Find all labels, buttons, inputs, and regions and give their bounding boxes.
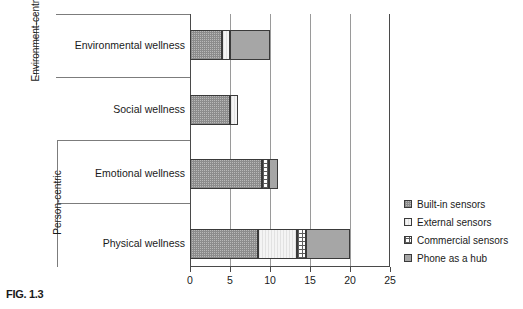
figure-caption: FIG. 1.3: [6, 288, 43, 300]
group-rule-person-centric-mid: [57, 203, 190, 204]
bar-environmental-wellness: [190, 30, 270, 60]
bar-segment-built-in-sensors: [190, 95, 230, 125]
category-label-physical-wellness: Physical wellness: [25, 237, 185, 249]
xtick-label-5: 5: [215, 274, 245, 286]
bar-segment-phone-as-a-hub: [269, 159, 278, 189]
bar-segment-external-sensors: [230, 95, 238, 125]
bar-segment-built-in-sensors: [190, 229, 258, 259]
legend-item-built-in-sensors: Built-in sensors: [404, 196, 523, 212]
category-label-social-wellness: Social wellness: [25, 103, 185, 115]
bar-segment-external-sensors: [258, 229, 297, 259]
xtick-label-10: 10: [255, 274, 285, 286]
legend-label-built-in-sensors: Built-in sensors: [417, 199, 485, 210]
xtick-25: [390, 267, 391, 272]
category-label-emotional-wellness: Emotional wellness: [25, 167, 185, 179]
xtick-label-25: 25: [375, 274, 405, 286]
bar-segment-built-in-sensors: [190, 30, 222, 60]
bar-emotional-wellness: [190, 159, 278, 189]
bar-social-wellness: [190, 95, 238, 125]
xtick-label-15: 15: [295, 274, 325, 286]
category-label-environmental-wellness: Environmental wellness: [25, 39, 185, 51]
bar-segment-phone-as-a-hub: [230, 30, 270, 60]
legend-swatch-commercial-sensors-icon: [404, 236, 412, 244]
legend-label-commercial-sensors: Commercial sensors: [417, 235, 508, 246]
legend-swatch-external-sensors-icon: [404, 218, 412, 226]
bar-segment-built-in-sensors: [190, 159, 262, 189]
group-label-person-centric-text: Person-centric: [52, 170, 63, 234]
legend-item-phone-as-a-hub: Phone as a hub: [404, 250, 523, 266]
bar-segment-commercial-sensors: [297, 229, 306, 259]
bar-segment-phone-as-a-hub: [306, 229, 350, 259]
legend-item-external-sensors: External sensors: [404, 214, 523, 230]
legend-label-phone-as-a-hub: Phone as a hub: [417, 253, 487, 264]
xtick-10: [270, 267, 271, 272]
xtick-label-0: 0: [175, 274, 205, 286]
legend-swatch-phone-as-a-hub-icon: [404, 254, 412, 262]
group-top-rule-environment-centric: [56, 14, 190, 15]
bar-segment-commercial-sensors: [262, 159, 269, 189]
legend: Built-in sensors External sensors Commer…: [404, 196, 523, 268]
legend-label-external-sensors: External sensors: [417, 217, 491, 228]
legend-swatch-built-in-sensors-icon: [404, 200, 412, 208]
xtick-label-20: 20: [335, 274, 365, 286]
xtick-20: [350, 267, 351, 272]
group-bottom-rule-environment-centric: [56, 77, 190, 78]
xtick-15: [310, 267, 311, 272]
xtick-0: [190, 267, 191, 272]
figure-container: Environment-centric Person-centric Envir…: [0, 0, 523, 309]
xtick-5: [230, 267, 231, 272]
bar-physical-wellness: [190, 229, 350, 259]
group-top-rule-person-centric: [57, 140, 190, 141]
bar-segment-external-sensors: [222, 30, 230, 60]
legend-item-commercial-sensors: Commercial sensors: [404, 232, 523, 248]
